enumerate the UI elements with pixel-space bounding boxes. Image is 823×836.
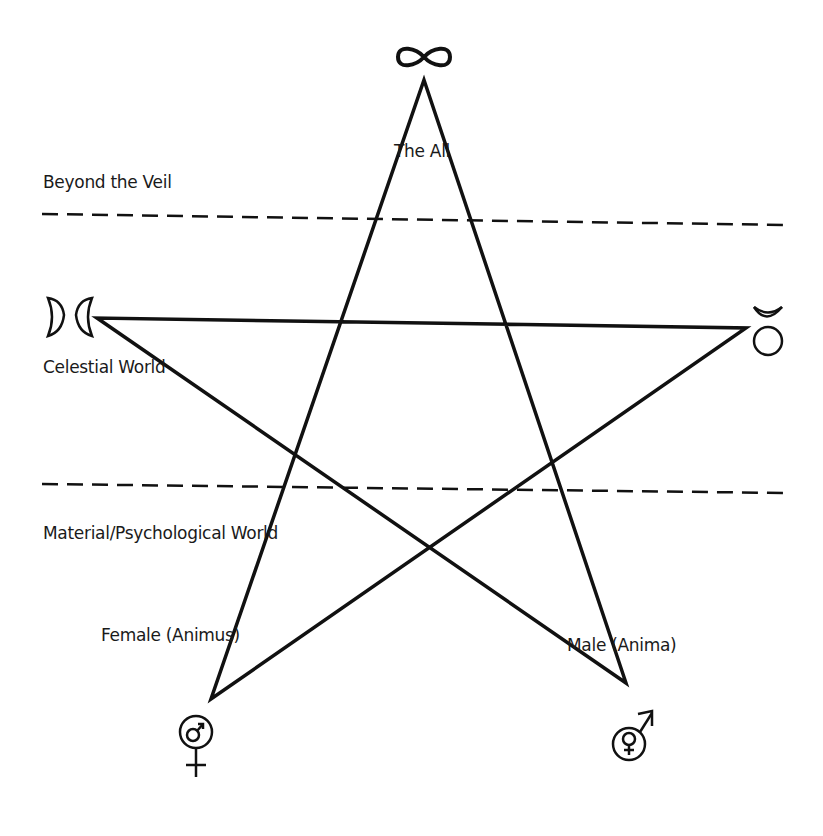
taurus-icon	[754, 307, 782, 355]
female-in-male-icon	[613, 711, 652, 760]
label-male: Male (Anima)	[567, 635, 676, 655]
pentagram-star	[97, 80, 746, 699]
male-in-female-icon	[180, 716, 212, 777]
label-celestial-world: Celestial World	[43, 357, 166, 377]
label-beyond-the-veil: Beyond the Veil	[43, 172, 172, 192]
pentagram-diagram	[0, 0, 823, 836]
label-the-all: The All	[394, 141, 450, 161]
veil-divider	[42, 214, 785, 225]
label-material-world: Material/Psychological World	[43, 523, 278, 543]
gemini-moon-icon	[48, 298, 92, 336]
infinity-icon	[398, 49, 450, 66]
world-divider	[42, 484, 785, 493]
label-female: Female (Animus)	[101, 625, 240, 645]
